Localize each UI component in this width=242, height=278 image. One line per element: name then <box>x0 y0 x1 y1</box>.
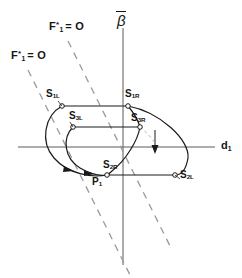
node-P1 <box>105 173 110 178</box>
F1-star-eq-upper: = O <box>65 20 84 32</box>
S1R-base: S <box>125 88 132 99</box>
S2L-base: S <box>180 169 187 180</box>
node-S3R <box>138 125 143 130</box>
F1-star-label-upper: F*1= O <box>49 21 84 34</box>
point-label-S3L: S3L <box>69 111 83 122</box>
point-label-P1: P1 <box>92 177 102 188</box>
P1-sub: 1 <box>99 180 102 187</box>
down-arrow-head <box>152 145 159 154</box>
phase-plane-figure: F*1= O F*1= O β d1 S1L S1R S3L S3R S2R S… <box>0 0 242 278</box>
F1-star-eq-lower: = O <box>27 49 46 61</box>
beta-glyph: β <box>117 13 126 28</box>
S3L-sub: 3L <box>76 114 83 121</box>
F1-star-base-lower: F <box>11 49 18 61</box>
d1-base: d <box>221 139 228 151</box>
point-label-S2L: S2L <box>180 170 194 181</box>
down-arrow-leader <box>140 127 155 143</box>
S3L-base: S <box>69 110 76 121</box>
S3R-base: S <box>131 112 138 123</box>
point-label-S2R: S2R <box>103 160 118 171</box>
beta-axis-label: β <box>117 13 126 28</box>
d1-sub: 1 <box>228 145 232 152</box>
S1R-sub: 1R <box>132 92 140 99</box>
flow-arrowhead-left <box>63 166 74 172</box>
F1-star-sub-upper: 1 <box>59 26 63 33</box>
F1-star-sub-lower: 1 <box>21 55 25 62</box>
S1L-sub: 1L <box>53 92 60 99</box>
point-label-S3R: S3R <box>131 113 146 124</box>
F1-star-base-upper: F <box>49 20 56 32</box>
node-S1R <box>126 104 131 109</box>
point-label-S1R: S1R <box>125 89 140 100</box>
F1-star-label-lower: F*1= O <box>11 50 46 63</box>
S1L-base: S <box>46 88 53 99</box>
d1-axis-label: d1 <box>221 140 232 152</box>
S2L-sub: 2L <box>187 173 194 180</box>
S2R-base: S <box>103 159 110 170</box>
P1-base: P <box>92 176 99 187</box>
figure-canvas <box>0 0 242 278</box>
inner-left-curve <box>66 127 107 175</box>
S3R-sub: 3R <box>138 116 146 123</box>
S2R-sub: 2R <box>110 163 118 170</box>
point-label-S1L: S1L <box>46 89 60 100</box>
